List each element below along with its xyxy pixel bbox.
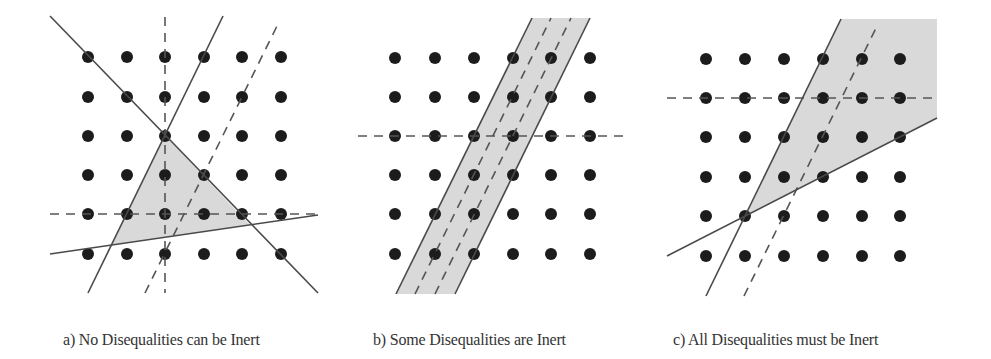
lattice-point xyxy=(429,91,441,103)
lattice-point xyxy=(739,53,751,65)
disequality-diagram xyxy=(0,0,991,359)
lattice-point xyxy=(468,91,480,103)
lattice-point xyxy=(198,91,210,103)
lattice-point xyxy=(389,208,401,220)
lattice-point xyxy=(389,248,401,260)
lattice-point xyxy=(275,130,287,142)
lattice-point xyxy=(700,250,712,262)
lattice-point xyxy=(817,210,829,222)
lattice-point xyxy=(856,171,868,183)
lattice-point xyxy=(121,169,133,181)
lattice-point xyxy=(817,250,829,262)
lattice-point xyxy=(121,91,133,103)
lattice-point xyxy=(82,91,94,103)
lattice-point xyxy=(700,131,712,143)
lattice-point xyxy=(584,91,596,103)
lattice-point xyxy=(584,169,596,181)
lattice-point xyxy=(894,250,906,262)
lattice-point xyxy=(389,52,401,64)
lattice-point xyxy=(198,248,210,260)
feasible-region xyxy=(745,19,937,217)
lattice-point xyxy=(236,91,248,103)
lattice-point xyxy=(739,250,751,262)
lattice-point xyxy=(121,130,133,142)
lattice-point xyxy=(82,169,94,181)
lattice-point xyxy=(856,131,868,143)
lattice-point xyxy=(429,52,441,64)
lattice-point xyxy=(778,53,790,65)
lattice-point xyxy=(856,250,868,262)
lattice-point xyxy=(429,169,441,181)
lattice-point xyxy=(778,171,790,183)
lattice-point xyxy=(389,169,401,181)
lattice-point xyxy=(429,248,441,260)
lattice-point xyxy=(894,171,906,183)
lattice-point xyxy=(275,91,287,103)
lattice-point xyxy=(584,208,596,220)
feasible-region xyxy=(396,18,590,294)
panel-a-no-inert xyxy=(50,16,318,293)
lattice-point xyxy=(82,51,94,63)
lattice-point xyxy=(198,51,210,63)
lattice-point xyxy=(236,169,248,181)
lattice-point xyxy=(198,130,210,142)
lattice-point xyxy=(778,250,790,262)
lattice-point xyxy=(545,169,557,181)
lattice-point xyxy=(275,51,287,63)
panel-b-some-inert xyxy=(358,18,628,294)
lattice-point xyxy=(856,210,868,222)
lattice-point xyxy=(700,53,712,65)
lattice-point xyxy=(507,91,519,103)
lattice-point xyxy=(584,248,596,260)
lattice-point xyxy=(700,171,712,183)
lattice-point xyxy=(468,52,480,64)
lattice-point xyxy=(275,169,287,181)
lattice-point xyxy=(507,248,519,260)
lattice-point xyxy=(739,131,751,143)
lattice-point xyxy=(584,52,596,64)
lattice-point xyxy=(389,91,401,103)
lattice-point xyxy=(700,210,712,222)
caption-panel-b: b) Some Disequalities are Inert xyxy=(373,331,566,349)
lattice-point xyxy=(545,248,557,260)
lattice-point xyxy=(894,210,906,222)
panel-c-all-inert xyxy=(667,19,937,296)
lattice-point xyxy=(236,51,248,63)
caption-panel-c: c) All Disequalities must be Inert xyxy=(673,331,878,349)
lattice-point xyxy=(236,248,248,260)
lattice-point xyxy=(82,130,94,142)
caption-panel-a: a) No Disequalities can be Inert xyxy=(63,331,260,349)
lattice-point xyxy=(121,51,133,63)
lattice-point xyxy=(121,248,133,260)
lattice-point xyxy=(545,208,557,220)
lattice-point xyxy=(739,171,751,183)
lattice-point xyxy=(507,208,519,220)
lattice-point xyxy=(894,53,906,65)
lattice-point xyxy=(236,130,248,142)
lattice-point xyxy=(778,210,790,222)
